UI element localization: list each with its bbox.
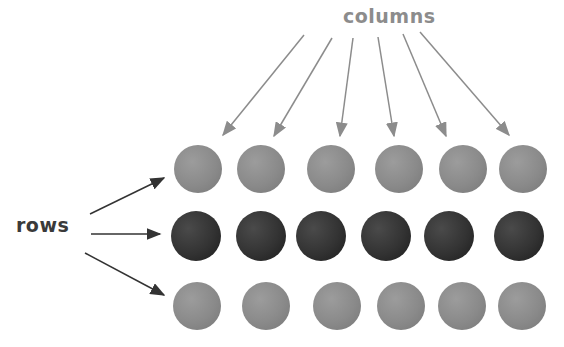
column-arrow-4 [378,37,394,136]
ball-r3-c6 [498,282,546,330]
ball-r1-c1 [174,145,222,193]
ball-r2-c6 [494,211,544,261]
ball-r2-c4 [361,211,411,261]
column-arrow-1 [223,35,304,135]
ball-r1-c5 [439,145,487,193]
row-arrows [85,178,164,295]
ball-r2-c1 [171,211,221,261]
ball-r3-c2 [242,282,290,330]
ball-r2-c5 [424,211,474,261]
ball-r1-c3 [307,145,355,193]
ball-r1-c4 [375,145,423,193]
column-arrows [223,32,509,136]
row-arrow-3 [85,253,164,295]
column-arrow-6 [420,32,509,135]
ball-r3-c1 [173,282,221,330]
ball-r1-c2 [237,145,285,193]
column-arrow-2 [274,38,332,136]
ball-r3-c4 [377,282,425,330]
ball-r3-c5 [438,282,486,330]
ball-r2-c2 [236,211,286,261]
ball-r1-c6 [499,145,547,193]
row-arrow-1 [90,178,164,214]
ball-r3-c3 [313,282,361,330]
ball-r2-c3 [296,211,346,261]
column-arrow-5 [403,34,446,136]
column-arrow-3 [340,38,353,136]
